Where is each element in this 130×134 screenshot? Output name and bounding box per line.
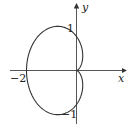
y-axis-label: y — [81, 1, 89, 14]
x-axis-label: x — [118, 72, 125, 85]
tick-label-xneg2: −2 — [10, 72, 26, 85]
tick-label-yneg1: −1 — [61, 108, 77, 121]
cardioid-diagram: y x 1 −1 −2 — [0, 0, 130, 134]
tick-label-y1: 1 — [67, 22, 74, 35]
